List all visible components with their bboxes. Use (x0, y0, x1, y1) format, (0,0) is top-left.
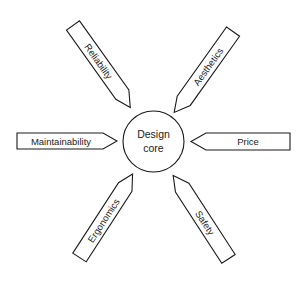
arrow-label: Maintainability (31, 136, 91, 147)
arrow-label: Aesthetics (191, 45, 226, 87)
core-label-line2: core (143, 142, 164, 154)
design-core-node: Design core (123, 111, 184, 172)
arrow-label: Price (237, 136, 259, 147)
arrow-price: Price (191, 133, 290, 150)
arrow-ergonomics: Ergonomics (73, 170, 140, 262)
arrow-label: Ergonomics (85, 196, 122, 244)
arrow-safety: Safety (167, 171, 235, 264)
arrow-reliability: Reliability (66, 21, 137, 112)
design-core-diagram: Design core Maintainability Price Reliab… (0, 0, 306, 284)
arrow-aesthetics: Aesthetics (168, 27, 239, 118)
core-label-line1: Design (137, 128, 170, 140)
arrow-maintainability: Maintainability (17, 133, 117, 149)
